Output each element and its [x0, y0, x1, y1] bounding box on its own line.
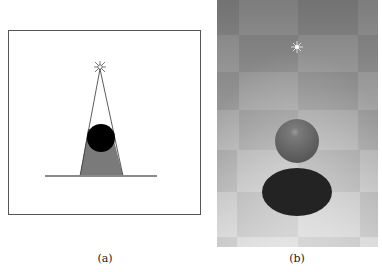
sphere-shadow	[262, 168, 332, 216]
sphere	[275, 119, 319, 163]
rendered-scene	[217, 0, 378, 247]
panel-b-render	[217, 0, 378, 247]
shadow-diagram	[9, 31, 202, 216]
caption-a: (a)	[85, 252, 125, 265]
caption-b: (b)	[277, 252, 317, 265]
panel-a-diagram	[8, 30, 201, 215]
occluder-sphere	[87, 124, 115, 152]
